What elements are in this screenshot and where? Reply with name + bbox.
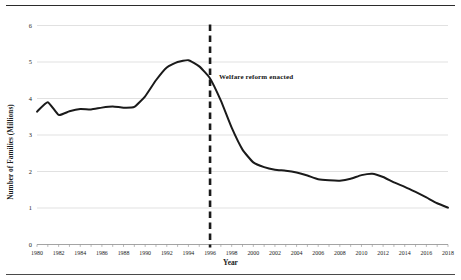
svg-text:1986: 1986 bbox=[96, 250, 108, 256]
chart-page: 0123456 19801982198419861988199019921994… bbox=[0, 0, 461, 280]
svg-text:1996: 1996 bbox=[204, 250, 216, 256]
x-axis-title: Year bbox=[0, 258, 461, 267]
plot-area: 0123456 19801982198419861988199019921994… bbox=[0, 0, 461, 280]
svg-text:1980: 1980 bbox=[31, 250, 43, 256]
svg-text:2018: 2018 bbox=[442, 250, 454, 256]
svg-text:2010: 2010 bbox=[356, 250, 368, 256]
svg-text:2: 2 bbox=[29, 168, 32, 175]
svg-text:2008: 2008 bbox=[334, 250, 346, 256]
data-series-line bbox=[37, 60, 448, 208]
svg-text:1982: 1982 bbox=[53, 250, 65, 256]
svg-text:1998: 1998 bbox=[226, 250, 238, 256]
y-tick-labels-group: 0123456 bbox=[29, 22, 33, 248]
svg-text:2012: 2012 bbox=[377, 250, 389, 256]
y-axis-title-text: Number of Families (Millions) bbox=[7, 87, 15, 217]
svg-text:1992: 1992 bbox=[161, 250, 173, 256]
svg-text:2004: 2004 bbox=[291, 250, 303, 256]
svg-text:2000: 2000 bbox=[247, 250, 259, 256]
x-tick-labels-group: 1980198219841986198819901992199419961998… bbox=[31, 250, 454, 256]
svg-text:2006: 2006 bbox=[312, 250, 324, 256]
svg-text:6: 6 bbox=[29, 22, 32, 29]
svg-text:1988: 1988 bbox=[118, 250, 130, 256]
svg-text:1984: 1984 bbox=[74, 250, 86, 256]
svg-text:2014: 2014 bbox=[399, 250, 411, 256]
welfare-reform-annotation: Welfare reform enacted bbox=[219, 73, 293, 81]
svg-text:2016: 2016 bbox=[420, 250, 432, 256]
svg-text:0: 0 bbox=[29, 241, 32, 248]
line-chart-svg: 0123456 19801982198419861988199019921994… bbox=[0, 0, 461, 280]
svg-text:3: 3 bbox=[29, 131, 32, 138]
svg-text:1990: 1990 bbox=[139, 250, 151, 256]
svg-text:1994: 1994 bbox=[183, 250, 195, 256]
svg-text:4: 4 bbox=[29, 95, 33, 102]
y-axis-title: Number of Families (Millions) bbox=[2, 88, 20, 218]
gridlines-group bbox=[37, 26, 448, 245]
svg-text:1: 1 bbox=[29, 204, 32, 211]
svg-text:5: 5 bbox=[29, 58, 32, 65]
svg-text:2002: 2002 bbox=[269, 250, 281, 256]
